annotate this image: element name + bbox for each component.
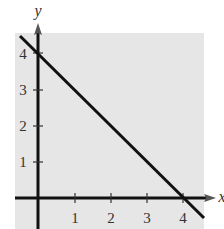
- ytick-label-2: 2: [19, 118, 27, 134]
- xtick-label-3: 3: [143, 210, 151, 226]
- xtick-label-2: 2: [107, 210, 115, 226]
- plot-shaded-region: [15, 33, 204, 229]
- ytick-label-3: 3: [19, 82, 27, 98]
- y-axis-label: y: [32, 2, 42, 20]
- ytick-label-4: 4: [19, 46, 27, 62]
- ytick-label-1: 1: [19, 154, 27, 170]
- xtick-label-4: 4: [179, 210, 187, 226]
- xtick-label-1: 1: [71, 210, 79, 226]
- x-axis-label: x: [217, 188, 224, 205]
- line-graph: 1 2 3 4 1 2 3 4 y x: [0, 0, 224, 229]
